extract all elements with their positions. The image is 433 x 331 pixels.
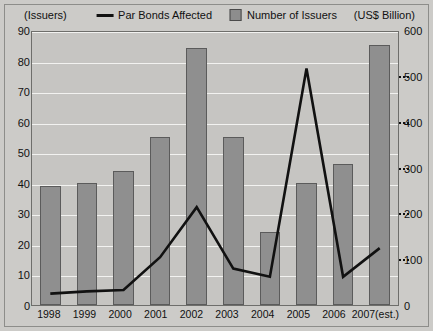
y-axis-tick-label: 60	[6, 117, 30, 129]
y2-axis-tick-mark	[399, 168, 411, 170]
legend-label: Number of Issuers	[247, 9, 337, 21]
y2-axis-tick-mark	[399, 259, 411, 261]
chart-header: (Issuers) Par Bonds Affected Number of I…	[10, 9, 423, 26]
x-axis-tick-label: 2002	[174, 308, 210, 324]
y2-axis-tick-label: 600	[404, 25, 422, 37]
x-axis-labels: 1998199920002001200220032004200520062007…	[31, 308, 399, 324]
y2-axis-tick-mark	[399, 122, 411, 124]
right-axis-unit-label: (US$ Billion)	[354, 9, 415, 21]
plot-background	[31, 31, 399, 306]
chart-figure: (Issuers) Par Bonds Affected Number of I…	[0, 0, 433, 331]
line-marker-icon	[96, 14, 113, 17]
square-swatch-icon	[230, 9, 242, 21]
y-axis-tick-label: 50	[6, 147, 30, 159]
x-axis-tick-label: 2004	[245, 308, 281, 324]
chart-legend: Par Bonds Affected Number of Issuers	[96, 9, 337, 21]
y2-axis-tick-label: 0	[404, 300, 410, 312]
y-axis-tick-label: 0	[6, 300, 30, 312]
y-axis-tick-label: 40	[6, 178, 30, 190]
plot-area	[31, 31, 399, 306]
y2-axis-tick-mark	[399, 76, 411, 78]
y-axis-tick-label: 80	[6, 56, 30, 68]
y-axis-tick-label: 90	[6, 25, 30, 37]
x-axis-tick-label: 2007(est.)	[352, 308, 399, 324]
x-axis-tick-label: 2000	[102, 308, 138, 324]
x-axis-tick-label: 2005	[280, 308, 316, 324]
x-axis-tick-label: 1998	[31, 308, 67, 324]
line-series	[32, 32, 398, 305]
legend-label: Par Bonds Affected	[118, 9, 212, 21]
y-axis-tick-label: 30	[6, 208, 30, 220]
x-axis-tick-label: 2003	[209, 308, 245, 324]
y-axis-tick-label: 10	[6, 269, 30, 281]
left-axis-unit-label: (Issuers)	[24, 9, 67, 21]
y2-axis-tick-mark	[399, 213, 411, 215]
y-axis-tick-label: 70	[6, 86, 30, 98]
legend-item-par-bonds-affected: Par Bonds Affected	[96, 9, 212, 21]
x-axis-tick-label: 2001	[138, 308, 174, 324]
x-axis-tick-label: 2006	[316, 308, 352, 324]
x-axis-tick-label: 1999	[67, 308, 103, 324]
y-axis-tick-label: 20	[6, 239, 30, 251]
legend-item-number-of-issuers: Number of Issuers	[230, 9, 337, 21]
